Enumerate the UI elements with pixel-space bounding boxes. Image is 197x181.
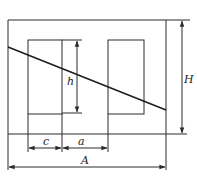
label-H: H <box>183 73 194 86</box>
label-h: h <box>67 75 74 88</box>
right-window <box>108 40 144 114</box>
c-a-dimension <box>28 114 108 152</box>
label-A: A <box>80 154 89 167</box>
label-a: a <box>78 135 85 148</box>
left-window <box>28 40 62 114</box>
core-diagram: h H c a A <box>0 0 197 181</box>
label-c: c <box>43 135 49 148</box>
diagonal-line <box>8 47 166 110</box>
